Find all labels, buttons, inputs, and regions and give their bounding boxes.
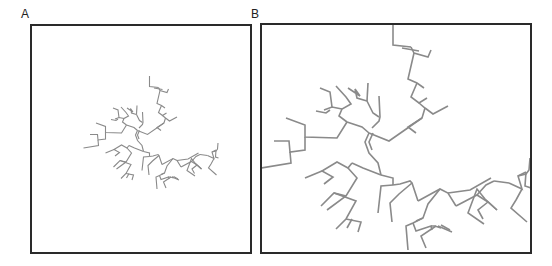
tree-branch bbox=[336, 86, 351, 122]
tree-branch bbox=[138, 131, 140, 140]
tree-branch bbox=[84, 140, 99, 148]
tree-branch bbox=[138, 123, 165, 135]
tree-branch bbox=[456, 195, 497, 210]
tree-branch bbox=[144, 152, 150, 157]
tree-branch bbox=[150, 155, 163, 165]
tree-branch bbox=[113, 108, 119, 118]
tree-branch bbox=[127, 108, 137, 115]
tree-branch bbox=[367, 101, 379, 117]
tree-branch bbox=[408, 108, 425, 133]
tree-branch bbox=[393, 181, 418, 201]
tree-branch bbox=[114, 145, 127, 156]
tree-branch bbox=[161, 159, 173, 175]
tree-branch bbox=[369, 133, 373, 150]
tree-branch bbox=[511, 189, 527, 222]
tree-branch bbox=[106, 150, 115, 154]
tree-branch bbox=[416, 189, 440, 221]
tree-branch bbox=[352, 163, 381, 175]
tree-branch bbox=[324, 107, 342, 110]
tree-branch bbox=[393, 24, 411, 47]
tree-branch bbox=[367, 83, 368, 101]
tree-branch bbox=[316, 110, 330, 113]
tree-branch bbox=[121, 107, 129, 125]
tree-branch bbox=[494, 181, 509, 183]
tree-branch bbox=[117, 146, 132, 170]
tree-branch bbox=[120, 161, 131, 179]
tree-branch bbox=[137, 106, 138, 115]
tree-branch bbox=[216, 150, 219, 158]
tree-branch bbox=[150, 76, 159, 88]
tree-branch bbox=[148, 156, 159, 176]
tree-branch bbox=[261, 152, 291, 168]
tree-branch bbox=[477, 181, 494, 195]
tree-branch bbox=[274, 137, 305, 152]
tree-branch bbox=[127, 125, 138, 131]
phylogenetic-tree-magnified bbox=[261, 24, 531, 250]
tree-branch bbox=[111, 119, 118, 121]
tree-branch bbox=[137, 115, 143, 123]
tree-branch bbox=[478, 202, 488, 219]
tree-branch bbox=[347, 122, 369, 133]
tree-branch bbox=[129, 146, 144, 152]
tree-branch bbox=[181, 162, 202, 170]
tree-branch bbox=[192, 155, 201, 162]
tree-branch bbox=[96, 123, 127, 133]
tree-branch bbox=[411, 83, 427, 103]
tree-branch bbox=[192, 165, 197, 174]
tree-branch bbox=[286, 118, 347, 138]
tree-branch bbox=[406, 218, 423, 250]
tree-branch bbox=[156, 173, 165, 189]
tree-branch bbox=[305, 171, 322, 178]
tree-branch bbox=[390, 183, 412, 222]
tree-branch bbox=[90, 133, 106, 141]
tree-branch bbox=[320, 88, 332, 107]
tree-figure bbox=[0, 0, 552, 266]
tree-branch bbox=[408, 53, 424, 88]
tree-branch bbox=[327, 163, 357, 210]
tree-branch bbox=[381, 175, 393, 185]
tree-branch bbox=[200, 155, 208, 156]
tree-branch bbox=[525, 172, 531, 188]
tree-branch bbox=[159, 106, 167, 116]
tree-branch bbox=[209, 159, 217, 176]
tree-branch bbox=[365, 133, 381, 175]
phylogenetic-tree-overview bbox=[84, 76, 219, 189]
tree-branch bbox=[369, 118, 422, 141]
tree-branch bbox=[334, 193, 356, 229]
tree-branch bbox=[322, 162, 348, 184]
tree-branch bbox=[115, 118, 124, 120]
tree-branch bbox=[348, 88, 367, 101]
tree-branch bbox=[402, 48, 419, 51]
